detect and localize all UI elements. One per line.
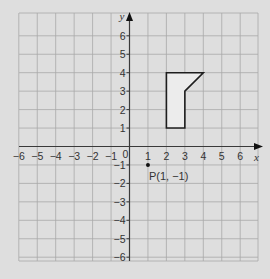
y-tick-label: −1 [114, 159, 126, 171]
y-tick-label: −2 [114, 177, 126, 189]
point-label: P(1, −1) [149, 170, 188, 182]
y-tick-label: −3 [114, 196, 126, 208]
x-tick-label: 1 [145, 150, 151, 162]
point-p: P(1, −1) [146, 163, 188, 182]
x-tick-label: 3 [182, 150, 188, 162]
y-tick-label: 2 [120, 104, 126, 116]
x-axis-arrow-icon [254, 143, 263, 150]
y-tick-label: −5 [114, 233, 126, 245]
y-tick-label: 6 [120, 30, 126, 42]
x-tick-label: −3 [68, 150, 80, 162]
shape-polygon [166, 73, 203, 128]
x-tick-label: −6 [13, 150, 25, 162]
x-tick-label: 6 [237, 150, 243, 162]
x-tick-label: −2 [87, 150, 99, 162]
grid-lines [19, 13, 258, 261]
x-tick-label: 4 [200, 150, 206, 162]
y-tick-label: 4 [120, 67, 126, 79]
coordinate-grid-diagram: xy −6−5−4−3−2−1123456654321−1−2−3−4−5−60… [0, 0, 270, 279]
x-tick-label: 5 [219, 150, 225, 162]
y-axis-label: y [119, 10, 125, 22]
origin-label: 0 [123, 148, 129, 160]
coordinate-plane: xy −6−5−4−3−2−1123456654321−1−2−3−4−5−60… [0, 0, 270, 279]
y-tick-label: 3 [120, 85, 126, 97]
y-tick-label: 5 [120, 48, 126, 60]
x-tick-label: −4 [50, 150, 62, 162]
y-tick-label: −6 [114, 251, 126, 263]
point-marker-icon [146, 163, 150, 167]
shape [166, 73, 203, 128]
x-tick-label: 2 [163, 150, 169, 162]
x-axis-label: x [253, 151, 259, 163]
y-tick-label: 1 [120, 122, 126, 134]
x-tick-label: −5 [31, 150, 43, 162]
y-tick-label: −4 [114, 214, 126, 226]
